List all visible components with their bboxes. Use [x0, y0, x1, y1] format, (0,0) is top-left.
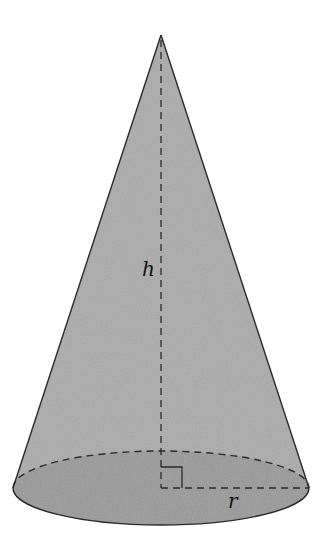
cone-figure: h r — [0, 0, 328, 554]
height-label: h — [142, 257, 155, 281]
radius-label: r — [228, 489, 239, 513]
